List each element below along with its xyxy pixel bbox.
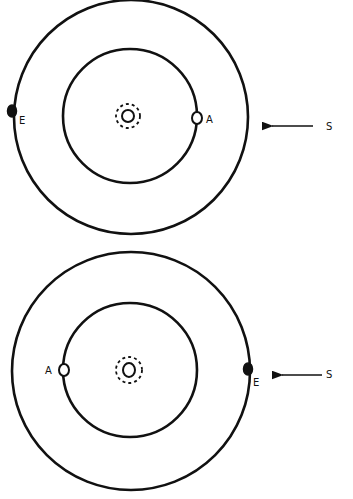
panel-bottom: A E S [12, 252, 332, 490]
planet-e: E [244, 363, 260, 388]
orbit-diagram: E A S A E S [0, 0, 353, 499]
planet-a-label: A [45, 365, 52, 376]
planet-a: A [192, 112, 213, 125]
central-body-icon [116, 104, 140, 128]
planet-e: E [8, 105, 26, 126]
outer-orbit [14, 0, 248, 234]
panel-top: E A S [8, 0, 333, 234]
inner-orbit [63, 49, 197, 183]
sun-label: S [326, 369, 332, 380]
planet-a: A [45, 364, 69, 376]
central-body-icon [116, 357, 142, 383]
inner-orbit [63, 303, 197, 437]
planet-e-label: E [19, 115, 25, 126]
planet-e-label: E [253, 377, 259, 388]
planet-a-label: A [206, 114, 213, 125]
sun-direction-arrow: S [282, 369, 332, 380]
sun-label: S [326, 121, 332, 132]
sun-direction-arrow: S [272, 121, 332, 132]
